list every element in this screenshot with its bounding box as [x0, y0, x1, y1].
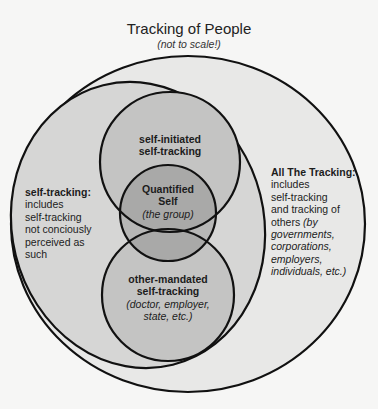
- all-tracking-line-4: others (by: [271, 216, 371, 228]
- quantified-self-note: (the group): [118, 208, 218, 220]
- self-tracking-line-4: perceived as: [25, 236, 110, 248]
- self-initiated-line-2: self-tracking: [110, 145, 230, 157]
- other-mandated-note-1: (doctor, employer,: [103, 298, 233, 310]
- quantified-self-label: Quantified Self (the group): [118, 183, 218, 220]
- self-tracking-heading: self-tracking:: [25, 186, 110, 198]
- all-tracking-line-3: and tracking of: [271, 203, 371, 215]
- other-mandated-line-2: self-tracking: [103, 285, 233, 297]
- other-mandated-line-1: other-mandated: [103, 273, 233, 285]
- quantified-self-line-1: Quantified: [118, 183, 218, 195]
- self-tracking-line-1: includes: [25, 198, 110, 210]
- self-tracking-label: self-tracking: includes self-tracking no…: [25, 186, 110, 260]
- self-tracking-line-2: self-tracking: [25, 211, 110, 223]
- other-mandated-label: other-mandated self-tracking (doctor, em…: [103, 273, 233, 323]
- all-tracking-line-2: self-tracking: [271, 191, 371, 203]
- all-tracking-italic-4: individuals, etc.): [271, 265, 371, 277]
- self-initiated-line-1: self-initiated: [110, 133, 230, 145]
- all-tracking-line-1: includes: [271, 178, 371, 190]
- other-mandated-note-2: state, etc.): [103, 310, 233, 322]
- all-tracking-line-4-plain: others: [271, 216, 303, 228]
- all-tracking-italic-1: governments,: [271, 228, 371, 240]
- self-tracking-line-3: not conciously: [25, 223, 110, 235]
- all-tracking-italic-3: employers,: [271, 253, 371, 265]
- quantified-self-line-2: Self: [118, 195, 218, 207]
- all-tracking-heading: All The Tracking:: [271, 166, 371, 178]
- all-tracking-label: All The Tracking: includes self-tracking…: [271, 166, 371, 278]
- all-tracking-line-4-italic: (by: [303, 216, 318, 228]
- self-initiated-label: self-initiated self-tracking: [110, 133, 230, 158]
- self-tracking-line-5: such: [25, 248, 110, 260]
- all-tracking-italic-2: corporations,: [271, 240, 371, 252]
